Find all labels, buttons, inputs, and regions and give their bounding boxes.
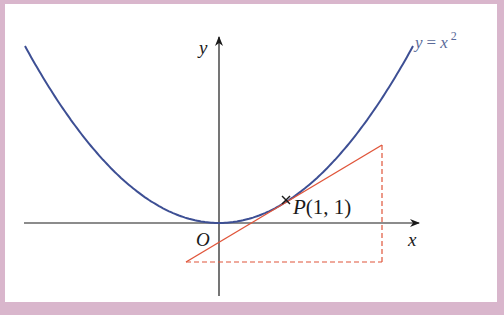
point-p-label: P(1, 1) bbox=[292, 195, 351, 219]
x-axis-label: x bbox=[407, 229, 417, 250]
parabola-tangent-diagram: y x O P(1, 1) y=x2 bbox=[0, 0, 504, 315]
tangent-line bbox=[186, 145, 382, 262]
diagram-frame: y x O P(1, 1) y=x2 bbox=[0, 0, 504, 315]
y-axis-label: y bbox=[197, 37, 208, 58]
curve-equation-label: y=x2 bbox=[413, 29, 457, 52]
origin-label: O bbox=[196, 229, 210, 250]
